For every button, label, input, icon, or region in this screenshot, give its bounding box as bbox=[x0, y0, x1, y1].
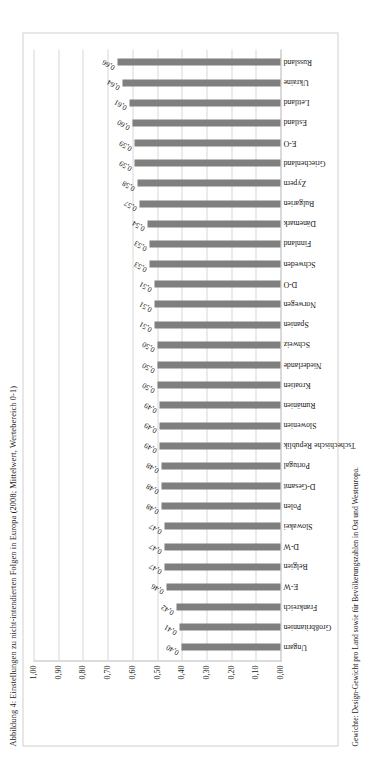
category-label: Norwegen bbox=[283, 300, 315, 309]
bar-slot: 0,46E-W bbox=[33, 576, 280, 596]
bar[interactable]: 0,59 bbox=[134, 139, 280, 146]
bar[interactable]: 0,51 bbox=[154, 301, 280, 308]
bar-value-label: 0,61 bbox=[112, 98, 128, 112]
y-axis-tick-label: 1,00 bbox=[29, 665, 38, 679]
category-label: Schweden bbox=[283, 259, 315, 268]
category-label: Belgien bbox=[283, 562, 307, 571]
bar-slot: 0,42Frankreich bbox=[33, 596, 280, 616]
bar-value-label: 0,59 bbox=[117, 158, 133, 172]
bar[interactable]: 0,53 bbox=[149, 240, 280, 247]
bar[interactable]: 0,50 bbox=[157, 381, 281, 388]
category-label: Finnland bbox=[283, 239, 311, 248]
bar-slot: 0,49Tschechische Republik bbox=[33, 435, 280, 455]
bar[interactable]: 0,48 bbox=[161, 482, 280, 489]
category-label: Slowenien bbox=[283, 421, 316, 430]
bar-slot: 0,53Schweden bbox=[33, 254, 280, 274]
bar-value-label: 0,59 bbox=[117, 138, 133, 152]
category-label: Dänemark bbox=[283, 219, 315, 228]
bar-slot: 0,61Lettland bbox=[33, 92, 280, 112]
bar-value-label: 0,66 bbox=[100, 57, 116, 71]
bar-slot: 0,48Polen bbox=[33, 496, 280, 516]
bar-value-label: 0,60 bbox=[115, 118, 131, 132]
category-label: Russland bbox=[283, 57, 312, 66]
y-axis-tick-label: 0,00 bbox=[276, 665, 285, 679]
bar-slot: 0,40Ungarn bbox=[33, 637, 280, 657]
y-axis-tick-label: 0,40 bbox=[177, 665, 186, 679]
bar-value-label: 0,49 bbox=[142, 441, 158, 455]
bar[interactable]: 0,53 bbox=[149, 260, 280, 267]
category-label: D-W bbox=[283, 542, 299, 551]
bar-value-label: 0,53 bbox=[132, 259, 148, 273]
figure-note: Gewichte: Design-Gewicht pro Land sowie … bbox=[350, 466, 359, 746]
bar-value-label: 0,47 bbox=[147, 541, 163, 555]
bar-value-label: 0,49 bbox=[142, 400, 158, 414]
bar[interactable]: 0,57 bbox=[139, 200, 280, 207]
category-label: E-O bbox=[283, 138, 296, 147]
bar[interactable]: 0,48 bbox=[161, 502, 280, 509]
bar-slot: 0,48Portugal bbox=[33, 455, 280, 475]
y-axis-tick-label: 0,60 bbox=[127, 665, 136, 679]
bar[interactable]: 0,54 bbox=[147, 220, 280, 227]
bar-slot: 0,64Ukraine bbox=[33, 72, 280, 92]
bar-slot: 0,58Zypern bbox=[33, 173, 280, 193]
bar[interactable]: 0,59 bbox=[134, 159, 280, 166]
y-axis-tick-label: 0,10 bbox=[251, 665, 260, 679]
bar-slot: 0,59E-O bbox=[33, 133, 280, 153]
bar[interactable]: 0,49 bbox=[159, 401, 280, 408]
category-label: Schweiz bbox=[283, 340, 309, 349]
y-axis-tick-label: 0,50 bbox=[152, 665, 161, 679]
rotated-figure-page: Abbildung 4: Einstellungen zu nicht-inte… bbox=[0, 0, 371, 760]
bar-value-label: 0,48 bbox=[144, 501, 160, 515]
bar-value-label: 0,57 bbox=[122, 198, 138, 212]
category-label: Tschechische Republik bbox=[283, 441, 355, 450]
chart-frame: 0,000,100,200,300,400,500,600,700,800,90… bbox=[22, 32, 338, 746]
bar[interactable]: 0,61 bbox=[129, 99, 280, 106]
bar[interactable]: 0,40 bbox=[181, 643, 280, 650]
bar[interactable]: 0,49 bbox=[159, 442, 280, 449]
bar[interactable]: 0,58 bbox=[137, 179, 280, 186]
category-label: D-Gesamt bbox=[283, 481, 315, 490]
bar-value-label: 0,49 bbox=[142, 420, 158, 434]
bar[interactable]: 0,50 bbox=[157, 341, 281, 348]
category-label: Ukraine bbox=[283, 78, 308, 87]
bar[interactable]: 0,51 bbox=[154, 280, 280, 287]
category-label: Niederlande bbox=[283, 360, 321, 369]
bar[interactable]: 0,47 bbox=[164, 543, 280, 550]
y-axis-tick-label: 0,30 bbox=[201, 665, 210, 679]
bar-value-label: 0,64 bbox=[105, 77, 121, 91]
bar[interactable]: 0,60 bbox=[132, 119, 280, 126]
bar-value-label: 0,53 bbox=[132, 239, 148, 253]
bar-slot: 0,66Russland bbox=[33, 52, 280, 72]
category-label: E-W bbox=[283, 582, 298, 591]
bar[interactable]: 0,48 bbox=[161, 462, 280, 469]
bar-value-label: 0,40 bbox=[164, 642, 180, 656]
bar-slot: 0,48D-Gesamt bbox=[33, 475, 280, 495]
bar[interactable]: 0,50 bbox=[157, 361, 281, 368]
bar[interactable]: 0,51 bbox=[154, 321, 280, 328]
bar[interactable]: 0,66 bbox=[117, 58, 280, 65]
category-label: Lettland bbox=[283, 98, 309, 107]
category-label: Frankreich bbox=[283, 602, 317, 611]
bar[interactable]: 0,42 bbox=[176, 603, 280, 610]
bar-value-label: 0,46 bbox=[149, 582, 165, 596]
bar[interactable]: 0,47 bbox=[164, 522, 280, 529]
bar[interactable]: 0,49 bbox=[159, 422, 280, 429]
plot-area: 0,000,100,200,300,400,500,600,700,800,90… bbox=[33, 49, 281, 661]
bar[interactable]: 0,46 bbox=[166, 583, 280, 590]
bar-value-label: 0,48 bbox=[144, 461, 160, 475]
bar[interactable]: 0,41 bbox=[179, 623, 280, 630]
bar-value-label: 0,41 bbox=[162, 622, 178, 636]
bar-slot: 0,51D-O bbox=[33, 274, 280, 294]
y-axis-tick-label: 0,80 bbox=[78, 665, 87, 679]
bar-slot: 0,50Niederlande bbox=[33, 354, 280, 374]
bar-value-label: 0,47 bbox=[147, 521, 163, 535]
bar-slot: 0,60Estland bbox=[33, 112, 280, 132]
category-label: Zypern bbox=[283, 178, 306, 187]
bar[interactable]: 0,47 bbox=[164, 563, 280, 570]
bar-slot: 0,50Kroatien bbox=[33, 375, 280, 395]
bar[interactable]: 0,64 bbox=[122, 79, 280, 86]
bar-value-label: 0,47 bbox=[147, 562, 163, 576]
bar-slot: 0,50Schweiz bbox=[33, 334, 280, 354]
category-label: Großbritannien bbox=[283, 622, 331, 631]
bar-slot: 0,47Belgien bbox=[33, 556, 280, 576]
